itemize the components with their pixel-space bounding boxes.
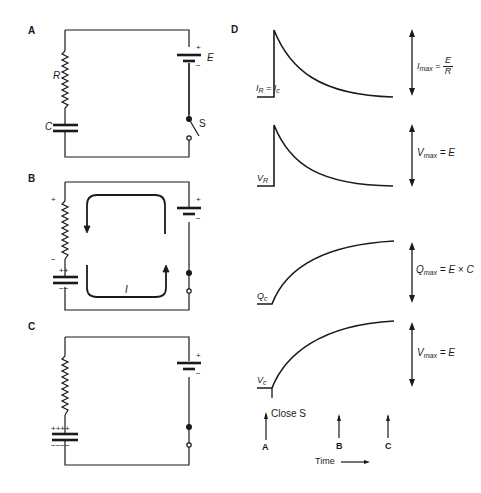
circuit-diagram: [0, 0, 481, 493]
current-label: I: [125, 285, 128, 295]
graph-qc-max-label: Qmax = E × C: [416, 265, 474, 276]
graph-vr-ylabel: VR: [257, 174, 268, 184]
graph-qc-ylabel: Qc: [257, 292, 268, 302]
time-marker-a: A: [262, 443, 269, 452]
panel-label-a: A: [28, 26, 35, 36]
battery-plus-b: +: [196, 196, 201, 204]
resistor-a: [62, 51, 68, 108]
graph-vc-curve: [257, 321, 394, 388]
battery-label: E: [207, 53, 214, 63]
time-axis-label: Time: [315, 457, 335, 466]
resistor-label: R: [53, 71, 60, 81]
time-marker-b: B: [336, 442, 343, 451]
panel-label-b: B: [28, 174, 35, 184]
capacitor-charge-bottom-c: −−−−: [51, 442, 70, 450]
time-marker-c: C: [385, 442, 392, 451]
panel-label-d: D: [231, 25, 238, 35]
graph-vc-max-label: Vmax = E: [417, 348, 455, 359]
panel-label-c: C: [28, 322, 35, 332]
resistor-plus-b: +: [51, 196, 56, 204]
circuit-a: [62, 30, 189, 157]
battery-minus-a: −: [196, 62, 201, 70]
graph-current-ylabel: IR = Ic: [256, 84, 280, 94]
capacitor-charge-top-b: ++: [59, 267, 68, 275]
graph-vr-curve: [257, 125, 393, 186]
battery-plus-a: +: [196, 44, 201, 52]
resistor-minus-b: −: [51, 256, 56, 264]
graph-vc-ylabel: Vc: [257, 376, 267, 386]
capacitor-charge-top-c: ++++: [51, 425, 70, 433]
battery-minus-c: −: [196, 370, 201, 378]
switch-label: S: [199, 119, 206, 129]
close-switch-label: Close S: [271, 409, 306, 419]
graph-current-max-label: Imax = E R: [417, 56, 453, 77]
graph-qc-curve: [257, 241, 394, 304]
capacitor-label: C: [45, 122, 52, 132]
battery-minus-b: −: [196, 215, 201, 223]
capacitor-charge-bottom-b: −−: [59, 285, 68, 293]
battery-plus-c: +: [196, 352, 201, 360]
graph-vr-max-label: Vmax = E: [417, 148, 455, 159]
